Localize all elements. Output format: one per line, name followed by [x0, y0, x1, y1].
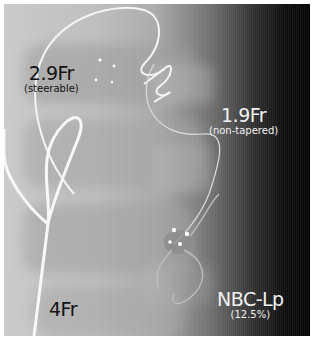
label-catheter-19fr: 1.9Fr (non-tapered): [209, 106, 278, 136]
label-sub: (non-tapered): [209, 126, 278, 136]
xray-graphics: [4, 4, 310, 336]
xray-image: 2.9Fr (steerable) 1.9Fr (non-tapered) 4F…: [4, 4, 310, 336]
label-catheter-4fr: 4Fr: [49, 300, 77, 319]
label-main: 1.9Fr: [209, 106, 278, 125]
label-embolic-agent: NBC-Lp (12.5%): [217, 290, 284, 320]
label-catheter-29fr: 2.9Fr (steerable): [24, 64, 79, 94]
label-sub: (steerable): [24, 84, 79, 94]
label-main: NBC-Lp: [217, 290, 284, 309]
label-main: 4Fr: [49, 300, 77, 319]
label-main: 2.9Fr: [24, 64, 79, 83]
label-sub: (12.5%): [217, 310, 284, 320]
